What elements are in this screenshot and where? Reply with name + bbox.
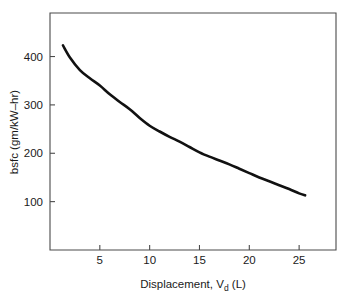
y-tick-label: 300 [24,99,43,111]
chart-background [0,0,359,295]
y-tick-label: 400 [24,51,43,63]
chart-plot-area: 510152025 100200300400 Displacement, Vd … [0,0,359,295]
x-tick-label: 5 [97,254,103,266]
x-tick-label: 20 [243,254,256,266]
chart-figure: 510152025 100200300400 Displacement, Vd … [0,0,359,295]
y-tick-label: 200 [24,147,43,159]
x-tick-label: 25 [293,254,306,266]
x-tick-label: 10 [143,254,156,266]
y-axis-title: bsfc (gm/kW–hr) [8,90,20,175]
y-tick-label: 100 [24,196,43,208]
x-tick-label: 15 [193,254,206,266]
